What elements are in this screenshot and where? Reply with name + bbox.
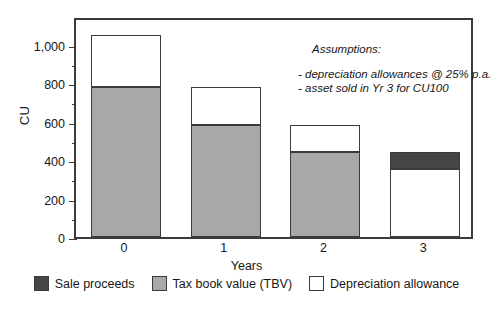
legend-item[interactable]: Sale proceeds [34,276,135,291]
x-axis-tick-label: 0 [104,241,144,255]
x-axis-tick-label: 1 [204,241,244,255]
chart-figure: 02004006008001,000 CU Assumptions: - dep… [0,0,493,309]
x-axis-tick-label: 2 [303,241,343,255]
bar-group[interactable] [91,16,161,237]
x-axis-title: Years [0,259,493,273]
assumptions-line-2: - asset sold in Yr 3 for CU100 [298,81,491,96]
legend-label: Depreciation allowance [330,277,459,291]
x-axis-tick-labels: 0123 [74,241,473,261]
plot-frame: Assumptions: - depreciation allowances @… [74,18,473,239]
legend-swatch-icon [152,276,167,291]
y-axis-title: CU [17,86,32,146]
assumptions-title: Assumptions: [298,42,491,57]
bar-segment-depreciation-allowance[interactable] [290,125,360,153]
legend-item[interactable]: Depreciation allowance [309,276,459,291]
bar-segment-tax-book-value[interactable] [191,125,261,237]
bar-segment-tax-book-value[interactable] [91,87,161,237]
bar-segment-sale-proceeds[interactable] [390,152,460,169]
bar-segment-depreciation-allowance[interactable] [390,169,460,237]
chart-legend: Sale proceedsTax book value (TBV)Depreci… [0,276,493,291]
legend-label: Sale proceeds [55,277,135,291]
bar-segment-depreciation-allowance[interactable] [91,35,161,87]
assumptions-line-1: - depreciation allowances @ 25% p.a. [298,67,491,82]
bar-segment-tax-book-value[interactable] [290,152,360,237]
legend-item[interactable]: Tax book value (TBV) [152,276,293,291]
assumptions-annotation: Assumptions: - depreciation allowances @… [298,42,491,96]
legend-swatch-icon [309,276,324,291]
legend-swatch-icon [34,276,49,291]
x-axis-tick-label: 3 [403,241,443,255]
legend-label: Tax book value (TBV) [173,277,293,291]
y-axis-major-tick [69,239,77,240]
bar-segment-depreciation-allowance[interactable] [191,87,261,124]
bar-group[interactable] [191,16,261,237]
